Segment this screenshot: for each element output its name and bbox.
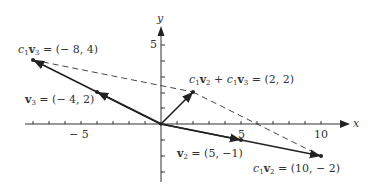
- label-c1v3: c1v3 = (− 8, 4): [18, 44, 98, 59]
- vector-v3: [98, 93, 161, 125]
- label-sum: c1v2 + c1v3 = (2, 2): [189, 74, 294, 89]
- y-tick-5: 5: [150, 39, 157, 51]
- x-tick-5: 5: [238, 129, 245, 141]
- y-axis-label: y: [157, 13, 163, 25]
- x-tick-10: 10: [314, 129, 328, 141]
- label-v3: v3 = (− 4, 2): [25, 94, 94, 109]
- x-axis: [25, 120, 350, 128]
- point-c1v2: [319, 154, 323, 158]
- origin-point: [159, 122, 163, 126]
- vector-v2: [161, 124, 240, 140]
- dashed-line-c1v3-to-sum: [33, 60, 193, 92]
- y-axis: [158, 26, 166, 182]
- label-c1v2: c1v2 = (10, − 2): [253, 163, 340, 178]
- point-sum: [191, 90, 195, 94]
- point-v3: [95, 90, 99, 94]
- x-axis-label: x: [353, 118, 359, 130]
- x-tick-neg5: − 5: [69, 129, 89, 141]
- label-v2: v2 = (5, −1): [177, 148, 243, 163]
- vector-sum: [161, 93, 193, 125]
